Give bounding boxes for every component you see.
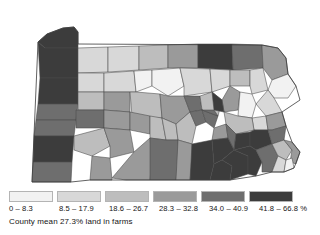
county-greene <box>32 162 72 182</box>
county-armstrong <box>104 110 130 130</box>
legend-swatch-row <box>9 191 293 202</box>
legend-swatch-2 <box>57 191 101 202</box>
county-bradford <box>198 44 233 70</box>
county-indiana <box>130 112 150 134</box>
county-bedford <box>150 138 178 180</box>
county-columbia <box>222 86 240 112</box>
county-lycoming <box>180 68 212 96</box>
county-beaver <box>34 120 76 136</box>
county-butler <box>76 110 104 128</box>
county-clinton <box>152 68 184 96</box>
choropleth-figure: 0 – 8.3 8.5 – 17.9 18.6 – 26.7 28.3 – 32… <box>0 0 320 235</box>
figure-caption: County mean 27.3% land in farms <box>9 216 133 227</box>
county-potter <box>139 45 168 70</box>
county-sullivan <box>210 69 230 92</box>
county-allegheny <box>74 128 110 156</box>
legend: 0 – 8.3 8.5 – 17.9 18.6 – 26.7 28.3 – 32… <box>0 189 320 235</box>
county-carbon <box>252 116 268 130</box>
county-elk <box>104 71 136 92</box>
legend-swatch-4 <box>153 191 197 202</box>
county-fayette <box>90 156 112 180</box>
legend-label-row: 0 – 8.3 8.5 – 17.9 18.6 – 26.7 28.3 – 32… <box>9 204 305 214</box>
legend-swatch-6 <box>249 191 293 202</box>
legend-label-4: 28.3 – 32.8 <box>159 204 205 214</box>
county-franklin <box>190 140 214 180</box>
county-lawrence <box>36 104 78 120</box>
county-mercer <box>38 78 78 104</box>
legend-swatch-5 <box>201 191 245 202</box>
county-wayne <box>262 45 288 80</box>
legend-swatch-1 <box>9 191 53 202</box>
county-montour <box>212 92 224 112</box>
county-warren <box>78 47 108 73</box>
legend-label-6: 41.8 – 66.8 % <box>259 204 305 214</box>
county-wyoming <box>230 70 250 86</box>
county-venango <box>78 92 104 110</box>
pennsylvania-county-map <box>0 0 320 188</box>
county-forest <box>78 73 104 92</box>
county-lackawanna <box>250 68 268 94</box>
county-cameron <box>134 70 152 92</box>
map-canvas <box>0 0 320 188</box>
county-luzerne <box>238 92 256 118</box>
county-mckean <box>108 46 139 72</box>
county-fulton <box>176 140 192 180</box>
legend-label-2: 8.5 – 17.9 <box>59 204 105 214</box>
legend-swatch-3 <box>105 191 149 202</box>
legend-label-1: 0 – 8.3 <box>9 204 55 214</box>
county-susquehanna <box>232 44 263 70</box>
county-jefferson <box>104 92 130 112</box>
county-tioga <box>168 44 198 68</box>
legend-label-5: 34.0 – 40.9 <box>209 204 255 214</box>
county-washington <box>33 136 74 162</box>
legend-label-3: 18.6 – 26.7 <box>109 204 155 214</box>
